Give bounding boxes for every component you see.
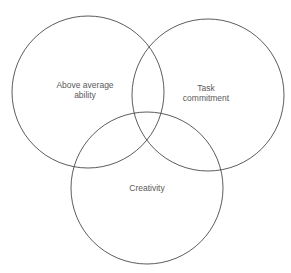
label-line: commitment: [183, 93, 229, 103]
label-line: Above average: [56, 80, 113, 90]
label-line: ability: [56, 90, 113, 100]
venn-diagram: [0, 0, 291, 273]
label-above-average-ability: Above average ability: [56, 80, 113, 100]
label-line: Task: [183, 83, 229, 93]
label-creativity: Creativity: [129, 183, 164, 193]
label-task-commitment: Task commitment: [183, 83, 229, 103]
label-line: Creativity: [129, 183, 164, 193]
